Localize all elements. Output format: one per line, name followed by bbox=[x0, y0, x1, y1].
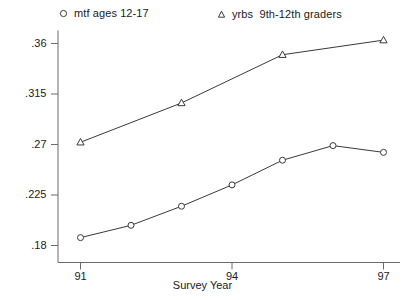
plot-area bbox=[0, 0, 405, 300]
circle-marker-icon bbox=[330, 143, 336, 149]
circle-marker-icon bbox=[78, 235, 84, 241]
series-line-1 bbox=[81, 40, 384, 142]
circle-marker-icon bbox=[128, 222, 134, 228]
axis-lines bbox=[51, 31, 400, 270]
y-tick-label: .315 bbox=[5, 88, 47, 99]
plot-canvas bbox=[0, 0, 405, 300]
chart-container: mtf ages 12-17 yrbs 9th-12th graders .18… bbox=[0, 0, 405, 300]
circle-marker-icon bbox=[280, 157, 286, 163]
y-tick-label: .18 bbox=[5, 240, 47, 251]
triangle-marker-icon bbox=[178, 99, 185, 105]
series-line-0 bbox=[81, 146, 384, 238]
triangle-marker-icon bbox=[380, 36, 387, 42]
circle-marker-icon bbox=[381, 149, 387, 155]
circle-marker-icon bbox=[179, 203, 185, 209]
circle-marker-icon bbox=[229, 182, 235, 188]
data-series-layer bbox=[77, 36, 387, 240]
y-tick-label: .225 bbox=[5, 189, 47, 200]
y-tick-label: .36 bbox=[5, 38, 47, 49]
y-tick-label: .27 bbox=[5, 139, 47, 150]
x-axis-title: Survey Year bbox=[0, 279, 405, 291]
